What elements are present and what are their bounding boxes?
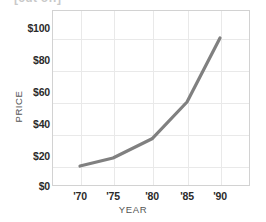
price-series-line (52, 10, 250, 186)
x-tick-label: '90 (213, 190, 227, 202)
y-tick-label: $40 (4, 118, 50, 130)
y-tick-label: $80 (4, 54, 50, 66)
x-tick-label: '75 (106, 190, 120, 202)
y-axis-ticks: $100 $80 $60 $40 $20 $0 (0, 0, 50, 222)
price-year-line-chart: [cut off] $100 $80 $60 $40 $20 $0 '70 '7… (0, 0, 266, 222)
x-tick-label: '70 (73, 190, 87, 202)
y-tick-label: $20 (4, 150, 50, 162)
x-axis-title: YEAR (0, 204, 266, 215)
x-tick-label: '85 (180, 190, 194, 202)
y-tick-label: $100 (4, 22, 50, 34)
x-tick-label: '80 (145, 190, 159, 202)
y-tick-label: $0 (4, 180, 50, 192)
y-tick-label: $60 (4, 86, 50, 98)
y-axis-title: PRICE (13, 77, 24, 137)
